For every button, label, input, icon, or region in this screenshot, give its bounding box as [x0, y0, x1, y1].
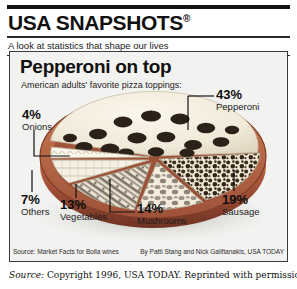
callout-sausage-name: Sausage: [222, 207, 260, 217]
callout-pepperoni-name: Pepperoni: [216, 102, 259, 112]
footer-copyright: Source: Copyright 1996, USA TODAY. Repri…: [9, 270, 297, 280]
chart-byline: By Patti Stang and Nick Galifianakis, US…: [140, 248, 284, 255]
callout-vegetables: 13% Vegetables: [60, 198, 107, 222]
brand-title-text: USA SNAPSHOTS: [8, 11, 183, 34]
brand-title: USA SNAPSHOTS®: [7, 9, 290, 36]
callout-others-name: Others: [21, 207, 50, 217]
registered-trademark-icon: ®: [183, 13, 190, 24]
pizza-pie-chart-illustration: [10, 52, 288, 262]
chart-panel: Pepperoni on top American adults' favori…: [9, 51, 288, 262]
callout-pepperoni-value: 43%: [216, 88, 259, 101]
footer-source-text: Copyright 1996, USA TODAY. Reprinted wit…: [44, 270, 297, 280]
footer-source-lead: Source:: [9, 270, 44, 280]
callout-sausage: 19% Sausage: [222, 193, 260, 217]
callout-onions-name: Onions: [22, 122, 52, 132]
callout-mushrooms-value: 14%: [137, 202, 187, 215]
usa-snapshots-infographic: USA SNAPSHOTS® A look at statistics that…: [0, 0, 297, 289]
chart-data-source: Source: Market Facts for Bolla wines: [13, 248, 119, 255]
callout-others: 7% Others: [21, 193, 50, 217]
callout-vegetables-value: 13%: [60, 198, 107, 211]
callout-onions: 4% Onions: [22, 108, 52, 132]
callout-others-value: 7%: [21, 193, 50, 206]
callout-sausage-value: 19%: [222, 193, 260, 206]
callout-onions-value: 4%: [22, 108, 52, 121]
masthead: USA SNAPSHOTS® A look at statistics that…: [7, 5, 290, 56]
callout-pepperoni: 43% Pepperoni: [216, 88, 259, 112]
callout-vegetables-name: Vegetables: [60, 212, 107, 222]
callout-mushrooms: 14% Mushrooms: [137, 202, 187, 226]
callout-mushrooms-name: Mushrooms: [137, 216, 187, 226]
